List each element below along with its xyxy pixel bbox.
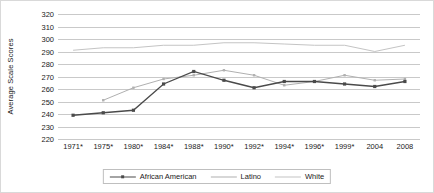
legend-swatch-icon: [110, 173, 136, 181]
y-axis-tick-label: 240: [41, 110, 54, 119]
x-axis-labels: 1971*1975*1980*1984*1988*1990*1992*1994*…: [58, 142, 420, 156]
series-marker: [403, 80, 406, 83]
legend-swatch-icon: [275, 173, 301, 181]
series-marker: [192, 70, 195, 73]
x-axis-tick-label: 1980*: [124, 142, 144, 151]
series-marker: [193, 74, 195, 76]
series-line: [73, 72, 405, 116]
series-marker: [404, 78, 406, 80]
y-axis-tick-label: 260: [41, 85, 54, 94]
legend-item[interactable]: African American: [110, 172, 197, 181]
series-marker: [132, 87, 134, 89]
y-axis-tick-label: 220: [41, 135, 54, 144]
y-axis-tick-label: 280: [41, 60, 54, 69]
y-axis-tick-label: 290: [41, 47, 54, 56]
x-axis-tick-label: 1999*: [335, 142, 355, 151]
series-marker: [343, 74, 345, 76]
x-axis-tick-label: 1996*: [305, 142, 325, 151]
chart-legend: African AmericanLatinoWhite: [103, 169, 331, 184]
series-marker: [71, 114, 74, 117]
x-axis-tick-label: 1990*: [214, 142, 234, 151]
y-axis-tick-label: 320: [41, 10, 54, 19]
series-marker: [223, 69, 225, 71]
legend-item-label: African American: [140, 172, 197, 181]
legend-item[interactable]: White: [275, 172, 324, 181]
series-marker: [373, 85, 376, 88]
y-axis-title-label: Average Scale Scores: [6, 38, 15, 114]
legend-item-label: Latino: [241, 172, 261, 181]
series-marker: [102, 111, 105, 114]
series-marker: [252, 86, 255, 89]
y-axis-title: Average Scale Scores: [3, 1, 17, 151]
series-marker: [222, 79, 225, 82]
x-axis-tick-label: 1992*: [244, 142, 264, 151]
series-marker: [102, 99, 104, 101]
series-marker: [162, 78, 164, 80]
legend-item[interactable]: Latino: [211, 172, 261, 181]
y-axis-tick-label: 310: [41, 22, 54, 31]
series-marker: [313, 80, 316, 83]
x-axis-tick-label: 1975*: [93, 142, 113, 151]
y-axis-tick-label: 300: [41, 35, 54, 44]
legend-swatch-icon: [211, 173, 237, 181]
x-axis-tick-label: 1988*: [184, 142, 204, 151]
series-marker: [374, 79, 376, 81]
legend-item-label: White: [305, 172, 324, 181]
y-axis-tick-label: 270: [41, 72, 54, 81]
gridline: [58, 139, 420, 140]
series-marker: [283, 84, 285, 86]
series-marker: [343, 82, 346, 85]
y-axis-tick-label: 250: [41, 97, 54, 106]
series-marker: [283, 80, 286, 83]
x-axis-tick-label: 1984*: [154, 142, 174, 151]
x-axis-tick-label: 2008: [397, 142, 414, 151]
y-axis-tick-label: 230: [41, 122, 54, 131]
series-marker: [162, 82, 165, 85]
series-lines: [58, 14, 420, 139]
x-axis-tick-label: 1994*: [274, 142, 294, 151]
series-marker: [253, 74, 255, 76]
plot-area: 320310300290280270260250240230220: [58, 14, 420, 139]
series-marker: [132, 109, 135, 112]
x-axis-tick-label: 2004: [366, 142, 383, 151]
series-line: [73, 43, 405, 52]
x-axis-tick-label: 1971*: [63, 142, 83, 151]
chart-figure: Average Scale Scores 3203103002902802702…: [0, 0, 434, 193]
